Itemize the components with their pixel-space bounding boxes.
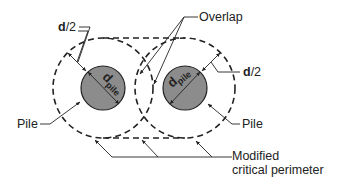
modified-arrow-2 — [142, 140, 158, 157]
d-half-right-leader — [211, 62, 240, 72]
pile-right-leader — [208, 104, 240, 124]
modified-arrow-1 — [95, 140, 112, 157]
pile-perimeter-diagram: dpile dpile d/2 d/2 Overlap Pile Pile Mo… — [0, 0, 344, 184]
d-half-left-label: d/2 — [58, 20, 76, 34]
modified-label-line1: Modified — [232, 149, 279, 163]
d-half-left-leader — [77, 31, 88, 62]
modified-arrow-3 — [196, 141, 212, 157]
modified-label-line2: critical perimeter — [232, 163, 324, 177]
overlap-label: Overlap — [199, 10, 243, 24]
pile-right-label: Pile — [242, 117, 263, 131]
d-half-right-label: d/2 — [243, 65, 261, 79]
pile-left-label: Pile — [17, 117, 38, 131]
